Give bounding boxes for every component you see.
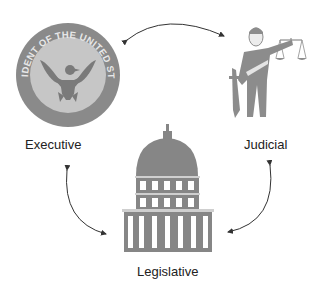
judicial-label: Judicial (244, 137, 287, 152)
arrow-judicial-legislative (228, 165, 271, 232)
arrow-executive-judicial (127, 24, 224, 40)
checks-and-balances-diagram: PRESIDENT OF THE UNITED STATES (0, 0, 324, 289)
justice-figure-icon (229, 28, 307, 119)
capitol-building-icon (122, 124, 214, 252)
presidential-seal-icon: PRESIDENT OF THE UNITED STATES (0, 0, 120, 127)
arrow-executive-legislative (66, 170, 106, 234)
executive-label: Executive (25, 137, 81, 152)
legislative-label: Legislative (137, 264, 198, 279)
